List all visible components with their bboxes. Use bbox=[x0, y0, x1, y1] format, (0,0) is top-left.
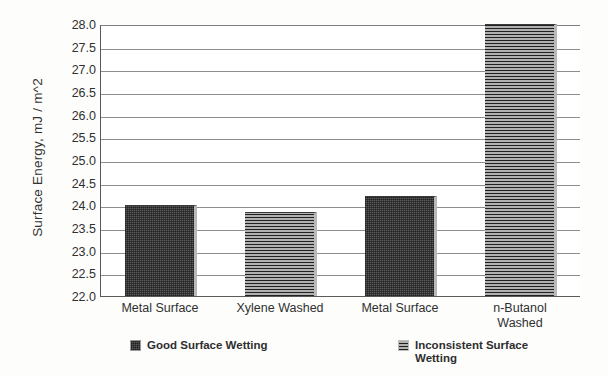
bar bbox=[365, 196, 437, 296]
y-axis-tick-label: 24.5 bbox=[52, 178, 96, 190]
x-axis-tick-label: n-Butanol Washed bbox=[460, 301, 580, 331]
y-axis-tick-label: 24.0 bbox=[52, 200, 96, 212]
y-axis-tick-labels: 28.027.527.026.526.025.525.024.524.023.5… bbox=[52, 25, 96, 297]
plot-area bbox=[100, 25, 580, 297]
legend-label: Inconsistent Surface Wetting bbox=[415, 339, 528, 364]
y-axis-tick-label: 28.0 bbox=[52, 19, 96, 31]
y-axis-tick-label: 22.0 bbox=[52, 291, 96, 303]
legend-label: Good Surface Wetting bbox=[147, 339, 268, 352]
chart-legend: Good Surface Wetting Inconsistent Surfac… bbox=[100, 339, 600, 373]
legend-swatch-icon bbox=[398, 340, 409, 351]
bar-chart-figure: Surface Energy, mJ / m^2 28.027.527.026.… bbox=[0, 0, 608, 377]
y-axis-title: Surface Energy, mJ / m^2 bbox=[30, 33, 45, 283]
bar bbox=[485, 24, 557, 296]
y-axis-tick-label: 23.0 bbox=[52, 246, 96, 258]
legend-entry-inconsistent-surface-wetting: Inconsistent Surface Wetting bbox=[398, 339, 528, 364]
legend-entry-good-surface-wetting: Good Surface Wetting bbox=[130, 339, 268, 352]
bar bbox=[245, 212, 317, 296]
bar bbox=[125, 205, 197, 296]
y-axis-tick-label: 22.5 bbox=[52, 268, 96, 280]
y-axis-tick-label: 25.0 bbox=[52, 155, 96, 167]
x-axis-tick-label: Metal Surface bbox=[340, 301, 460, 316]
y-axis-tick-label: 26.5 bbox=[52, 87, 96, 99]
y-axis-tick-label: 25.5 bbox=[52, 132, 96, 144]
y-axis-tick-label: 23.5 bbox=[52, 223, 96, 235]
y-axis-tick-label: 27.0 bbox=[52, 64, 96, 76]
x-axis-tick-label: Xylene Washed bbox=[220, 301, 340, 316]
y-axis-tick-label: 26.0 bbox=[52, 110, 96, 122]
legend-swatch-icon bbox=[130, 340, 141, 351]
x-axis-tick-label: Metal Surface bbox=[100, 301, 220, 316]
x-axis-tick-labels: Metal SurfaceXylene WashedMetal Surfacen… bbox=[100, 301, 580, 341]
bars-layer bbox=[101, 26, 580, 296]
y-axis-tick-label: 27.5 bbox=[52, 42, 96, 54]
